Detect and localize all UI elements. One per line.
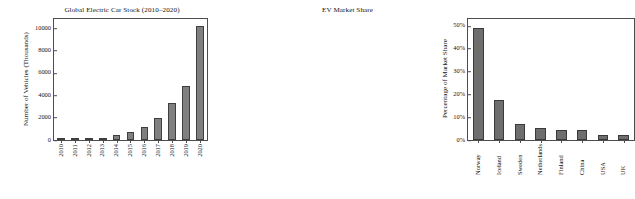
x-tick: Sweden	[510, 140, 531, 175]
bar-series	[54, 19, 207, 140]
bar-slot	[179, 19, 193, 140]
x-tick: Norway	[468, 140, 489, 175]
bar	[556, 130, 566, 141]
y-tick-label: 20%	[453, 91, 468, 97]
y-tick-label: 40%	[453, 45, 468, 51]
bar-slot	[530, 19, 551, 140]
bar	[473, 28, 483, 140]
x-tick-label: UK	[620, 144, 626, 175]
y-tick-label: 50%	[453, 23, 468, 29]
x-tick-label: 2020	[197, 144, 203, 157]
bar-slot	[572, 19, 593, 140]
x-tick-label: 2010	[58, 144, 64, 157]
bar-slot	[68, 19, 82, 140]
y-tick-label: 4000	[38, 92, 54, 98]
bar-slot	[137, 19, 151, 140]
y-axis-label: Number of Vehicles (Thousands)	[22, 18, 30, 140]
bar	[196, 26, 204, 140]
x-tick: 2011	[68, 140, 82, 157]
x-tick: 2013	[96, 140, 110, 157]
bar-slot	[110, 19, 124, 140]
plot-area: 0% 10% 20% 30% 40% 50% Norway Iceland	[467, 18, 635, 141]
x-tick-label: Iceland	[496, 144, 502, 175]
bar	[141, 127, 149, 140]
x-tick-label: China	[579, 144, 585, 175]
bar	[168, 103, 176, 140]
bar-slot	[165, 19, 179, 140]
x-tick: 2018	[165, 140, 179, 157]
x-tick: USA	[593, 140, 614, 175]
x-tick: China	[572, 140, 593, 175]
bar-slot	[151, 19, 165, 140]
x-tick: 2016	[137, 140, 151, 157]
x-tick-label: 2017	[155, 144, 161, 157]
x-axis-ticks: 2010 2011 2012 2013 2014 2015 2016 2017 …	[54, 140, 207, 157]
y-tick-label: 0%	[456, 137, 468, 143]
bar-slot	[193, 19, 207, 140]
bar-slot	[468, 19, 489, 140]
bar-slot	[124, 19, 138, 140]
bar-slot	[54, 19, 68, 140]
bar-slot	[96, 19, 110, 140]
x-tick: UK	[613, 140, 634, 175]
bar	[535, 128, 545, 140]
x-tick: 2019	[179, 140, 193, 157]
bar-slot	[613, 19, 634, 140]
x-tick-label: Sweden	[517, 144, 523, 175]
x-tick-label: 2019	[183, 144, 189, 157]
bar	[515, 124, 525, 140]
x-axis-ticks: Norway Iceland Sweden Netherlands Finlan…	[468, 140, 634, 175]
x-tick: Iceland	[489, 140, 510, 175]
x-tick: 2014	[110, 140, 124, 157]
x-tick: 2012	[82, 140, 96, 157]
x-tick-label: Norway	[475, 144, 481, 175]
x-tick-label: 2014	[113, 144, 119, 157]
y-tick-label: 30%	[453, 68, 468, 74]
bar-slot	[82, 19, 96, 140]
x-tick-label: 2018	[169, 144, 175, 157]
x-tick-label: 2016	[141, 144, 147, 157]
bar-slot	[551, 19, 572, 140]
x-tick-label: 2011	[72, 144, 78, 157]
chart-panel-electric-car-stock: Global Electric Car Stock (2010–2020) Nu…	[0, 0, 216, 199]
x-tick: 2020	[193, 140, 207, 157]
y-tick-label: 2000	[38, 114, 54, 120]
bar-slot	[593, 19, 614, 140]
x-tick-label: USA	[600, 144, 606, 175]
plot-area: 0 2000 4000 6000 8000 10000	[53, 18, 208, 141]
x-tick: 2015	[124, 140, 138, 157]
bar	[127, 132, 135, 140]
x-tick-label: 2013	[99, 144, 105, 157]
y-axis-label: Percentage of Market Share	[441, 18, 449, 140]
x-tick-label: 2015	[127, 144, 133, 157]
bar-slot	[489, 19, 510, 140]
chart-title: Global Electric Car Stock (2010–2020)	[0, 6, 216, 14]
x-tick-label: Finland	[558, 144, 564, 175]
bar	[182, 86, 190, 140]
chart-panel-ev-market-share: EV Market Share Percentage of Market Sha…	[216, 0, 457, 199]
x-tick: Finland	[551, 140, 572, 175]
x-tick-label: Netherlands	[537, 144, 543, 175]
x-tick-label: 2012	[86, 144, 92, 157]
bar-slot	[510, 19, 531, 140]
x-tick: 2010	[54, 140, 68, 157]
y-tick-label: 8000	[38, 47, 54, 53]
y-tick-label: 6000	[38, 70, 54, 76]
bar	[577, 130, 587, 141]
chart-title: EV Market Share	[216, 6, 457, 14]
bar-series	[468, 19, 634, 140]
bar	[154, 118, 162, 140]
x-tick: Netherlands	[530, 140, 551, 175]
y-tick-label: 10%	[453, 114, 468, 120]
x-tick: 2017	[151, 140, 165, 157]
y-tick-label: 10000	[35, 25, 54, 31]
bar	[494, 100, 504, 140]
